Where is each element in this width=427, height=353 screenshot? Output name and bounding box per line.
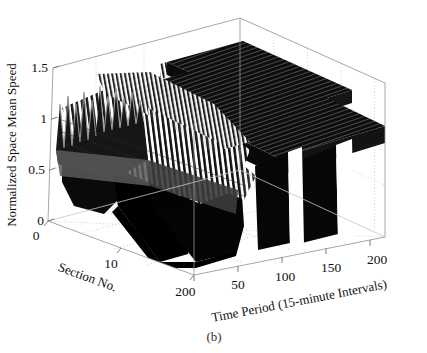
y-tick-label-100: 100	[275, 269, 296, 284]
plot-canvas: 0 0.5 1 1.5 Normalized Space Mean Speed …	[0, 0, 427, 353]
z-tick-label-0-5: 0.5	[28, 162, 45, 177]
y-tick-label-150: 150	[321, 260, 342, 275]
x-tick-label-0: 0	[33, 228, 40, 243]
y-tick-label-0: 0	[189, 284, 196, 299]
z-axis-label: Normalized Space Mean Speed	[4, 63, 19, 227]
x-tick-label-10: 10	[104, 256, 118, 271]
z-tick-label-1-5: 1.5	[31, 60, 48, 75]
figure-caption: (b)	[206, 329, 221, 344]
z-tick-label-0: 0	[37, 213, 44, 228]
y-tick-label-200: 200	[367, 252, 388, 267]
z-tick-label-1: 1	[40, 111, 47, 126]
figure-3d-surface-plot: 0 0.5 1 1.5 Normalized Space Mean Speed …	[0, 0, 427, 353]
x-tick-label-20: 20	[175, 284, 189, 299]
y-tick-label-50: 50	[231, 277, 245, 292]
